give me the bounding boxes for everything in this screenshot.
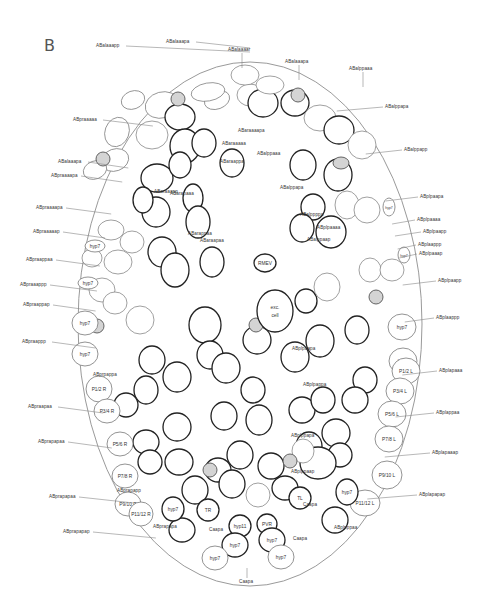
inner-label: ABplpppaa bbox=[334, 526, 357, 531]
named-cell-label: hyp7 bbox=[168, 507, 179, 512]
named-cell-label: hyp7 bbox=[80, 352, 91, 357]
cell bbox=[101, 114, 134, 150]
inner-label: ABprapapa bbox=[153, 525, 177, 530]
outer-label-left: ABpraapaa bbox=[28, 405, 52, 410]
cell bbox=[163, 362, 191, 392]
cell bbox=[103, 292, 127, 314]
cell bbox=[345, 316, 369, 344]
misc-label: Caapa bbox=[209, 528, 223, 533]
named-cell-label: hyp7 bbox=[80, 321, 91, 326]
outer-label-right: ABplpaapp bbox=[438, 279, 461, 284]
cell bbox=[139, 346, 165, 374]
named-cell-label: TR bbox=[205, 508, 212, 513]
inner-label: ABarappaa bbox=[188, 232, 212, 237]
cell bbox=[98, 220, 124, 240]
inner-label: ABalppapa bbox=[280, 186, 303, 191]
named-cell-label: hyp7 bbox=[397, 325, 408, 330]
named-cell bbox=[257, 290, 293, 332]
named-cell-label: hyp7 bbox=[90, 244, 101, 249]
inner-label: ABplpaapa bbox=[292, 347, 315, 352]
named-cell-label: PVR bbox=[262, 522, 272, 527]
inner-label: ABalppppa bbox=[300, 213, 323, 218]
cell bbox=[290, 150, 316, 180]
cell bbox=[256, 76, 284, 94]
inner-label: ABprapapp bbox=[117, 489, 141, 494]
outer-label-right: ABalppapp bbox=[404, 148, 427, 153]
named-cell-label: hyp7 bbox=[83, 281, 94, 286]
shaded-cell bbox=[283, 454, 297, 468]
outer-label-bottom: Caapa bbox=[239, 580, 253, 585]
outer-label-left: ABpraaaaa bbox=[73, 118, 97, 123]
cell bbox=[104, 250, 132, 274]
cell bbox=[126, 306, 154, 334]
cell bbox=[165, 449, 193, 475]
cell bbox=[246, 483, 270, 507]
cell bbox=[306, 325, 334, 357]
named-cell-label: P1/2 L bbox=[399, 369, 413, 374]
cell bbox=[211, 402, 237, 430]
named-cell-label: P7/8 R bbox=[118, 474, 133, 479]
inner-label: ABaraaapp bbox=[154, 190, 178, 195]
outer-label-right: ABplaappp bbox=[418, 243, 441, 248]
outer-label-left: ABprapapaa bbox=[49, 495, 76, 500]
cell bbox=[354, 197, 380, 223]
leader-line bbox=[337, 107, 383, 111]
inner-label: ABaraapaa bbox=[200, 239, 224, 244]
outer-label-right: ABplpaaaa bbox=[417, 218, 440, 223]
named-cell-label: hyp7 bbox=[342, 490, 353, 495]
outer-label-right: ABplapaaap bbox=[432, 451, 458, 456]
outer-label-right: ABplapaaa bbox=[439, 369, 462, 374]
named-cell-label: TL bbox=[297, 496, 303, 501]
inner-label: ABplpaaaa bbox=[317, 226, 340, 231]
named-cell-label: hyp7 bbox=[230, 543, 241, 548]
named-cell-label: hyp7 bbox=[276, 555, 287, 560]
cell bbox=[231, 65, 259, 85]
leader-line bbox=[66, 208, 111, 214]
cell bbox=[348, 131, 376, 159]
cell bbox=[163, 413, 191, 441]
outer-label-right: ABalppapa bbox=[385, 105, 408, 110]
outer-label-left: ABalaaapa bbox=[58, 160, 81, 165]
cell bbox=[311, 387, 335, 413]
cell bbox=[314, 273, 340, 301]
outer-label-right: ABplappaa bbox=[436, 411, 459, 416]
cell bbox=[342, 387, 368, 413]
outer-label-right: ABplpaapp bbox=[423, 230, 446, 235]
cell bbox=[219, 470, 245, 498]
cell bbox=[192, 129, 216, 157]
cell bbox=[295, 289, 317, 313]
outer-label-right: ABplaappp bbox=[436, 316, 459, 321]
cell bbox=[212, 353, 240, 383]
cell bbox=[316, 216, 346, 248]
leader-line bbox=[395, 232, 421, 236]
outer-label-left: ABpraaaapa bbox=[51, 174, 78, 179]
cell bbox=[241, 377, 265, 403]
outer-label-left: ABalaaapa bbox=[166, 40, 189, 45]
outer-label-left: ABpraaaapa bbox=[36, 206, 63, 211]
cell bbox=[120, 231, 144, 253]
named-cell-label: P7/8 L bbox=[382, 437, 396, 442]
inner-label: ABplppaap bbox=[291, 470, 314, 475]
outer-label-left: ABpraaappp bbox=[20, 283, 47, 288]
named-cell-label: P5/6 L bbox=[385, 412, 399, 417]
shaded-cell bbox=[291, 88, 305, 102]
named-cell-label: cell bbox=[271, 313, 278, 318]
inner-label: ABaraaaaa bbox=[222, 142, 246, 147]
inner-label: ABprpappa bbox=[93, 373, 117, 378]
named-cell-label: P11/12 L bbox=[356, 501, 375, 506]
outer-label-left: ABpraappaa bbox=[26, 258, 53, 263]
named-cell-label: hyp7 bbox=[210, 556, 221, 561]
outer-label-right: ABplpaapa bbox=[420, 195, 443, 200]
named-cell-label: P1/2 R bbox=[92, 387, 107, 392]
leader-line bbox=[53, 305, 96, 311]
cell bbox=[133, 187, 153, 213]
named-cell-label: hyp7 bbox=[385, 206, 392, 210]
outer-label-left: ABalaaapp bbox=[96, 44, 119, 49]
shaded-cell bbox=[96, 152, 110, 166]
cell bbox=[134, 376, 158, 404]
named-cell-label: P11/12 R bbox=[131, 512, 151, 517]
outer-label-left: ABprapapaa bbox=[38, 440, 65, 445]
outer-label-top: ABalaaaar bbox=[228, 48, 250, 53]
misc-label: Caapa bbox=[303, 503, 317, 508]
inner-label: ABaraappa bbox=[220, 160, 244, 165]
